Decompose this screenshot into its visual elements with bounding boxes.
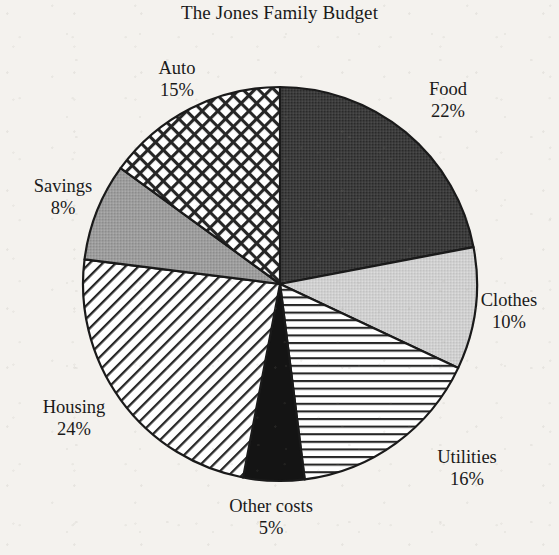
slice-label-clothes-name: Clothes bbox=[462, 289, 556, 311]
slice-label-food-name: Food bbox=[400, 78, 496, 100]
slice-label-clothes: Clothes 10% bbox=[462, 289, 556, 333]
slice-label-savings-percent: 8% bbox=[8, 197, 118, 219]
chart-title: The Jones Family Budget bbox=[0, 2, 559, 24]
slice-label-savings-name: Savings bbox=[8, 175, 118, 197]
slice-label-other-costs-percent: 5% bbox=[196, 517, 346, 539]
pie-chart-figure: Auto 15% Food 22% Clothes 10% Utilities … bbox=[0, 0, 559, 555]
slice-label-housing-name: Housing bbox=[18, 396, 130, 418]
slice-label-food-percent: 22% bbox=[400, 100, 496, 122]
slice-label-clothes-percent: 10% bbox=[462, 311, 556, 333]
slice-label-savings: Savings 8% bbox=[8, 175, 118, 219]
slice-label-housing-percent: 24% bbox=[18, 418, 130, 440]
pie-slice-housing bbox=[83, 259, 280, 477]
slice-label-auto-name: Auto bbox=[129, 57, 225, 79]
slice-label-auto: Auto 15% bbox=[129, 57, 225, 101]
slice-label-food: Food 22% bbox=[400, 78, 496, 122]
slice-label-auto-percent: 15% bbox=[129, 79, 225, 101]
slice-label-utilities-percent: 16% bbox=[418, 468, 516, 490]
slice-label-utilities: Utilities 16% bbox=[418, 446, 516, 490]
slice-label-housing: Housing 24% bbox=[18, 396, 130, 440]
slice-label-utilities-name: Utilities bbox=[418, 446, 516, 468]
slice-label-other-costs-name: Other costs bbox=[196, 495, 346, 517]
slice-label-other-costs: Other costs 5% bbox=[196, 495, 346, 539]
pie-slices-group bbox=[83, 87, 477, 481]
